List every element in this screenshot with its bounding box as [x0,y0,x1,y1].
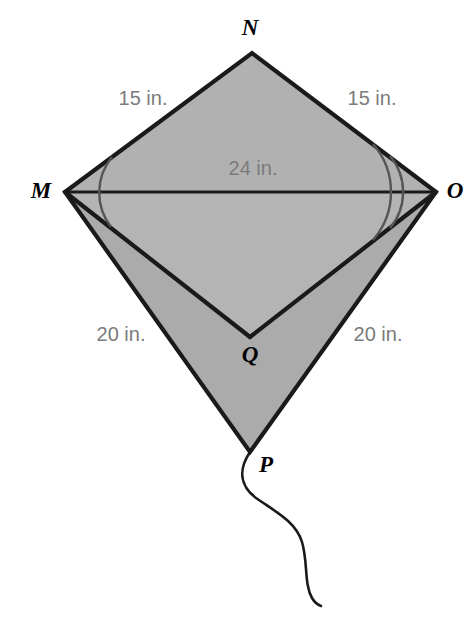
measure-label-mp: 20 in. [97,324,146,344]
kite-diagram-canvas [0,0,473,640]
vertex-label-n: N [242,16,259,39]
vertex-label-o: O [447,179,464,202]
vertex-label-m: M [31,179,51,202]
measure-label-mo: 24 in. [229,158,278,178]
vertex-label-q: Q [242,343,259,366]
measure-label-po: 20 in. [354,324,403,344]
kite-figure: M N O P Q 15 in. 15 in. 24 in. 20 in. 20… [0,0,473,640]
measure-label-no: 15 in. [348,88,397,108]
vertex-label-p: P [259,453,273,476]
kite-string [242,452,321,606]
measure-label-nm: 15 in. [119,88,168,108]
